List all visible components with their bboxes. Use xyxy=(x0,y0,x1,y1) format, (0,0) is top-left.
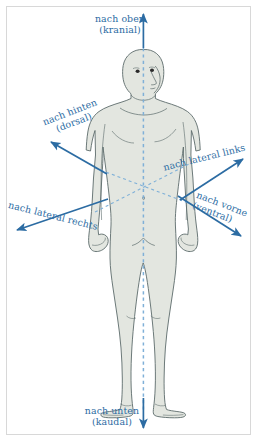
label-cranial-line2: (kranial) xyxy=(81,24,159,35)
label-kaudal: nach unten (kaudal) xyxy=(73,405,151,427)
figure-graphics xyxy=(0,0,259,447)
eye-left xyxy=(136,70,140,73)
label-cranial-line1: nach oben xyxy=(81,13,159,24)
anatomical-directions-figure: nach oben (kranial) nach unten (kaudal) … xyxy=(0,0,259,447)
label-kaudal-line1: nach unten xyxy=(73,405,151,416)
label-cranial: nach oben (kranial) xyxy=(81,13,159,35)
label-kaudal-line2: (kaudal) xyxy=(73,416,151,427)
eye-right xyxy=(150,69,154,72)
